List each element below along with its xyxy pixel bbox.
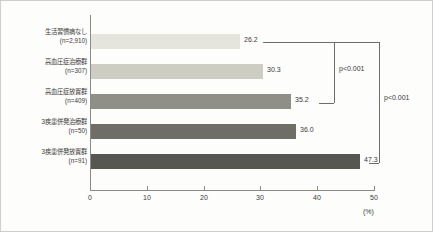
x-axis-tick <box>374 186 375 191</box>
category-label-line1: 生活習慣病なし <box>45 28 87 35</box>
bar-value-label: 26.2 <box>244 36 258 43</box>
bracket-inner-vertical-line <box>334 42 335 103</box>
bracket-outer-top-line <box>263 42 379 43</box>
category-label-line2: (n=307) <box>7 66 87 75</box>
bracket-outer-bottom-line <box>369 163 379 164</box>
x-axis-unit-label: (%) <box>363 208 374 215</box>
bar-value-label: 47.3 <box>364 156 378 163</box>
x-axis-tick-label: 30 <box>256 194 264 201</box>
x-axis-tick <box>260 186 261 191</box>
x-axis-tick-label: 0 <box>88 194 92 201</box>
category-label-line2: (n=50) <box>7 126 87 135</box>
bar-chart-plot-area: 生活習慣病なし (n=2,910) 26.2 高血圧症治療群 (n=307) 3… <box>1 1 433 232</box>
bar-value-label: 35.2 <box>295 96 309 103</box>
x-axis-tick <box>147 186 148 191</box>
x-axis-tick-label: 20 <box>200 194 208 201</box>
bracket-outer-pvalue-label: p<0.001 <box>384 94 410 101</box>
bar <box>91 94 291 109</box>
category-label: 高血圧症治療群 (n=307) <box>7 57 87 76</box>
category-label: 3疾患併発放置群 (n=91) <box>7 147 87 166</box>
bar-value-label: 36.0 <box>300 126 314 133</box>
bar-value-label: 30.3 <box>267 66 281 73</box>
category-label-line2: (n=2,910) <box>7 36 87 45</box>
category-label-line1: 3疾患併発放置群 <box>41 148 87 155</box>
category-label-line1: 高血圧症治療群 <box>45 58 87 65</box>
bracket-inner-bottom-line <box>319 103 334 104</box>
chart-figure: 生活習慣病なし (n=2,910) 26.2 高血圧症治療群 (n=307) 3… <box>0 0 433 232</box>
x-axis-tick <box>204 186 205 191</box>
x-axis-line <box>90 190 374 191</box>
category-label: 3疾患併発治療群 (n=50) <box>7 117 87 136</box>
bar <box>91 34 240 49</box>
x-axis-tick-label: 40 <box>313 194 321 201</box>
category-label: 生活習慣病なし (n=2,910) <box>7 27 87 46</box>
bar <box>91 124 296 139</box>
bracket-outer-vertical-line <box>379 42 380 163</box>
category-label-line1: 3疾患併発治療群 <box>41 118 87 125</box>
x-axis-tick-label: 50 <box>370 194 378 201</box>
category-label-line1: 高血圧症放置群 <box>45 88 87 95</box>
x-axis-tick-label: 10 <box>143 194 151 201</box>
category-label-line2: (n=91) <box>7 156 87 165</box>
bracket-inner-pvalue-label: p<0.001 <box>339 65 365 72</box>
x-axis-tick <box>317 186 318 191</box>
category-label: 高血圧症放置群 (n=409) <box>7 87 87 106</box>
bar <box>91 64 263 79</box>
x-axis-tick <box>90 186 91 191</box>
bar <box>91 154 360 169</box>
category-label-line2: (n=409) <box>7 96 87 105</box>
